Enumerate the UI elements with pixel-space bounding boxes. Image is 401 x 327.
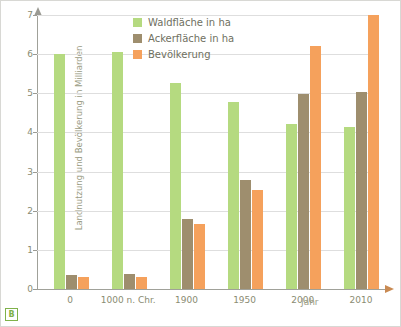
bar	[54, 54, 65, 289]
bar	[136, 277, 147, 289]
legend-item: Bevölkerung	[133, 47, 234, 61]
bar	[182, 219, 193, 289]
bar	[368, 15, 379, 289]
y-axis-tick-mark	[33, 132, 37, 133]
y-axis-tick-label: 4	[21, 132, 33, 133]
bar	[124, 274, 135, 289]
x-axis-line	[37, 289, 387, 290]
x-axis-title: Jahr	[301, 297, 319, 307]
corner-badge: B	[5, 308, 18, 321]
legend-label: Bevölkerung	[148, 49, 211, 60]
bar	[252, 190, 263, 289]
legend-swatch-icon	[133, 18, 142, 27]
bar	[228, 102, 239, 289]
chart-figure: Landnutzung und Bevölkerung in Milliarde…	[0, 0, 401, 327]
y-axis-tick-mark	[33, 250, 37, 251]
y-axis-tick-mark	[33, 93, 37, 94]
y-axis-tick-label: 1	[21, 250, 33, 251]
bar	[356, 92, 367, 289]
chart-legend: Waldfläche in haAckerfläche in haBevölke…	[133, 15, 234, 63]
y-axis-tick-mark	[33, 211, 37, 212]
bar	[78, 277, 89, 289]
legend-item: Waldfläche in ha	[133, 15, 234, 29]
legend-label: Ackerfläche in ha	[148, 33, 234, 44]
y-axis-tick-label: 2	[21, 211, 33, 212]
bar	[170, 83, 181, 289]
bar	[344, 127, 355, 289]
bar-group	[54, 15, 89, 289]
y-axis-tick-label: 5	[21, 93, 33, 94]
y-axis-tick-mark	[33, 172, 37, 173]
bar	[298, 94, 309, 289]
bar	[194, 224, 205, 289]
y-axis-tick-label: 3	[21, 172, 33, 173]
bar	[66, 275, 77, 289]
y-axis-tick-mark	[33, 289, 37, 290]
legend-label: Waldfläche in ha	[148, 17, 231, 28]
bar	[112, 52, 123, 289]
y-axis-tick-mark	[33, 15, 37, 16]
y-axis-tick-label: 0	[21, 289, 33, 290]
bar-group	[286, 15, 321, 289]
y-axis-tick-mark	[33, 54, 37, 55]
legend-swatch-icon	[133, 34, 142, 43]
y-axis-tick-label: 7	[21, 15, 33, 16]
bar	[286, 124, 297, 289]
x-axis-tick-label: 2010	[325, 295, 396, 305]
bar	[310, 46, 321, 289]
bar-group	[344, 15, 379, 289]
legend-item: Ackerfläche in ha	[133, 31, 234, 45]
bar	[240, 180, 251, 289]
y-axis-tick-label: 6	[21, 54, 33, 55]
legend-swatch-icon	[133, 50, 142, 59]
